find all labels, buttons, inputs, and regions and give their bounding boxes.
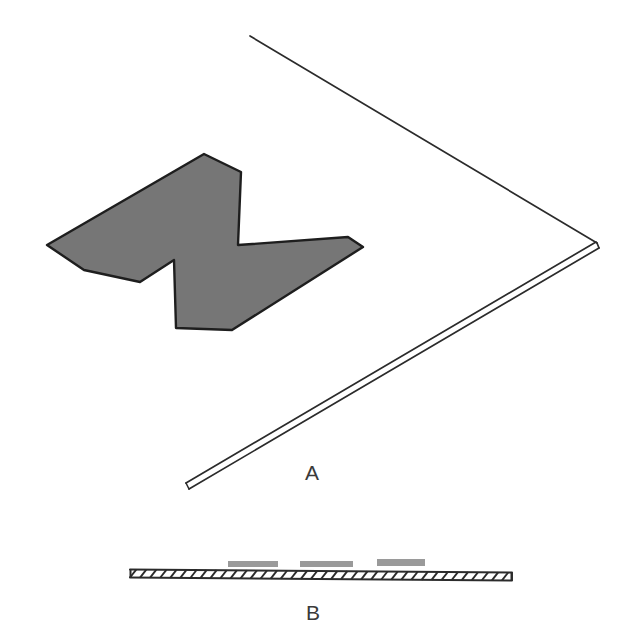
hatch-stroke	[401, 572, 407, 580]
panel-a-plate	[47, 36, 599, 489]
hatch-stroke	[442, 572, 448, 580]
hatch-stroke	[341, 571, 347, 579]
panel-label-a: A	[305, 462, 320, 483]
hatch-stroke	[391, 572, 397, 580]
hatch-stroke	[381, 572, 387, 580]
cross-section-patches	[228, 559, 425, 567]
hatch-stroke	[411, 572, 417, 580]
hatch-stroke	[321, 571, 327, 579]
hatch-stroke	[210, 570, 216, 578]
hatch-stroke	[462, 572, 468, 580]
hatch-stroke	[311, 571, 317, 579]
hatch-stroke	[251, 571, 257, 579]
hatch-stroke	[422, 572, 428, 580]
hatch-stroke	[281, 571, 287, 579]
plate-top-edge	[250, 36, 597, 243]
hatch-stroke	[482, 572, 488, 580]
hatch-stroke	[190, 570, 196, 578]
hatch-stroke	[452, 572, 458, 580]
hatch-stroke	[170, 570, 176, 578]
hatch-stroke	[432, 572, 438, 580]
hatch-stroke	[220, 570, 226, 578]
figure-canvas	[0, 0, 624, 642]
plate-bottom-tip-cap	[186, 483, 189, 489]
hatch-stroke	[291, 571, 297, 579]
hatch-stroke	[261, 571, 267, 579]
hatch-stroke	[150, 570, 156, 578]
hatch-stroke	[301, 571, 307, 579]
patch-3	[377, 559, 425, 566]
figure-root: A B	[0, 0, 624, 642]
hatch-stroke	[472, 572, 478, 580]
hatch-stroke	[492, 572, 498, 580]
hatch-stroke	[180, 570, 186, 578]
patch-1	[228, 561, 278, 567]
hatch-stroke	[351, 571, 357, 579]
panel-label-b: B	[306, 602, 321, 623]
hatch-stroke	[140, 570, 146, 578]
hatch-stroke	[271, 571, 277, 579]
hatch-stroke	[231, 570, 237, 578]
panel-b-cross-section	[130, 559, 512, 581]
zigzag-gray-region	[47, 154, 363, 330]
hatch-stroke	[331, 571, 337, 579]
cross-section-top-rail	[130, 570, 512, 573]
hatch-stroke	[371, 571, 377, 579]
hatch-stroke	[502, 572, 508, 580]
hatch-stroke	[361, 571, 367, 579]
hatch-stroke	[241, 570, 247, 578]
hatch-stroke	[160, 570, 166, 578]
hatch-stroke	[200, 570, 206, 578]
patch-2	[300, 561, 353, 567]
